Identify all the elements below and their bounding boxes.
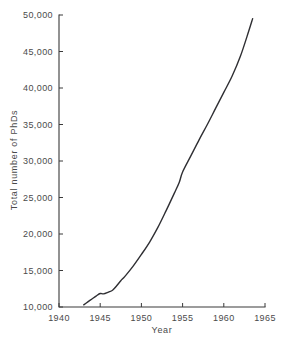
y-axis-tick-label: 45,000 (23, 47, 53, 57)
chart-container: 10,00015,00020,00025,00030,00035,00040,0… (0, 0, 302, 342)
y-axis-tick-label: 20,000 (23, 229, 53, 239)
y-axis-tick-marks (59, 15, 63, 307)
y-axis-tick-label: 25,000 (23, 193, 53, 203)
x-axis-tick-label: 1965 (254, 313, 276, 323)
x-axis-tick-label: 1950 (131, 313, 153, 323)
y-axis-tick-label: 30,000 (23, 156, 53, 166)
x-axis-tick-label: 1940 (48, 313, 70, 323)
x-axis-tick-label: 1945 (89, 313, 111, 323)
x-axis-tick-marks (59, 303, 265, 307)
y-axis-tick-label: 35,000 (23, 120, 53, 130)
phd-growth-line-chart: 10,00015,00020,00025,00030,00035,00040,0… (0, 0, 302, 342)
x-axis-tick-label: 1955 (172, 313, 194, 323)
x-axis-tick-labels: 194019451950195519601965 (48, 313, 276, 323)
y-axis-tick-label: 10,000 (23, 302, 53, 312)
x-axis-title: Year (152, 325, 173, 335)
y-axis-tick-label: 50,000 (23, 10, 53, 20)
x-axis-tick-label: 1960 (213, 313, 235, 323)
data-series-line (84, 19, 253, 305)
y-axis-tick-labels: 10,00015,00020,00025,00030,00035,00040,0… (23, 10, 53, 312)
chart-axes (59, 15, 265, 307)
y-axis-tick-label: 15,000 (23, 266, 53, 276)
y-axis-tick-label: 40,000 (23, 83, 53, 93)
y-axis-title: Total number of PhDs (9, 110, 19, 211)
